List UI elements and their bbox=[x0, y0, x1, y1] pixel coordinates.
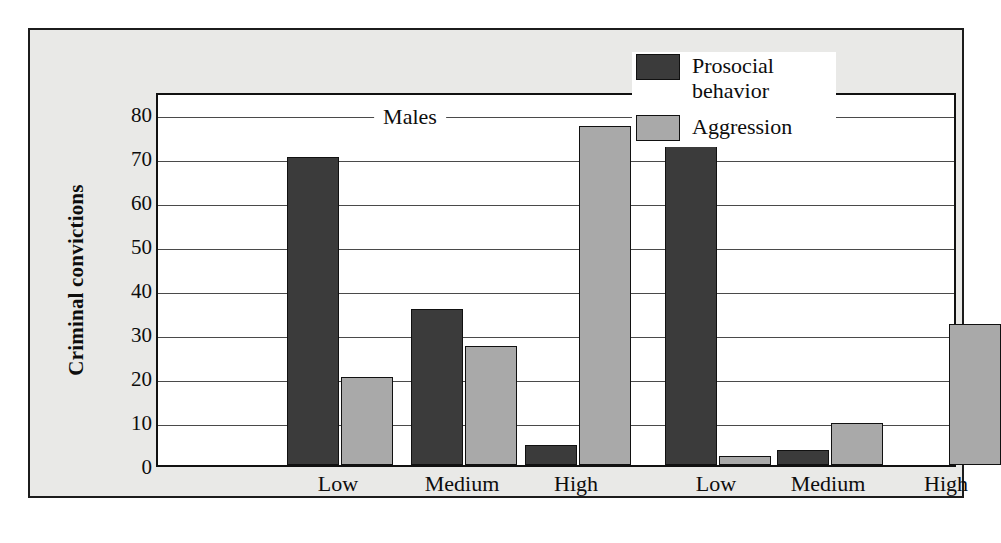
x-tick-females-medium: Medium bbox=[791, 471, 866, 497]
y-tick-20: 20 bbox=[108, 369, 152, 390]
x-tick-males-high: High bbox=[554, 471, 598, 497]
bar-aggression-females-medium bbox=[831, 423, 883, 465]
gridline-60 bbox=[158, 205, 954, 206]
group-label-males: Males bbox=[374, 104, 446, 130]
gridline-20 bbox=[158, 381, 954, 382]
chart-panel: Criminal convictions 80706050403020100 M… bbox=[28, 28, 964, 498]
y-tick-60: 60 bbox=[108, 193, 152, 214]
gridline-70 bbox=[158, 161, 954, 162]
bar-prosocial-males-low bbox=[287, 157, 339, 465]
y-tick-30: 30 bbox=[108, 325, 152, 346]
bar-aggression-females-low bbox=[719, 456, 771, 465]
x-tick-males-low: Low bbox=[318, 471, 358, 497]
y-tick-50: 50 bbox=[108, 237, 152, 258]
y-tick-70: 70 bbox=[108, 149, 152, 170]
chart-legend: Prosocial behaviorAggression bbox=[632, 52, 836, 147]
plot-area: MalesFemales bbox=[156, 93, 956, 467]
x-axis-tick-labels: LowMediumHighLowMediumHigh bbox=[156, 471, 956, 511]
x-tick-males-medium: Medium bbox=[425, 471, 500, 497]
legend-item-aggression: Aggression bbox=[636, 115, 832, 141]
bar-aggression-males-high bbox=[579, 126, 631, 465]
x-tick-females-high: High bbox=[924, 471, 968, 497]
legend-label-prosocial: Prosocial behavior bbox=[692, 54, 822, 103]
y-axis-tick-labels: 80706050403020100 bbox=[96, 93, 152, 467]
y-tick-40: 40 bbox=[108, 281, 152, 302]
legend-label-aggression: Aggression bbox=[692, 115, 792, 140]
y-tick-0: 0 bbox=[108, 457, 152, 478]
y-axis-title: Criminal convictions bbox=[64, 93, 94, 467]
gridline-30 bbox=[158, 337, 954, 338]
prosocial-swatch bbox=[636, 54, 680, 80]
gridline-50 bbox=[158, 249, 954, 250]
bar-aggression-males-medium bbox=[465, 346, 517, 465]
bar-prosocial-males-high bbox=[525, 445, 577, 465]
bar-prosocial-females-low bbox=[665, 124, 717, 465]
y-tick-80: 80 bbox=[108, 105, 152, 126]
gridline-40 bbox=[158, 293, 954, 294]
legend-item-prosocial: Prosocial behavior bbox=[636, 54, 832, 103]
bar-prosocial-males-medium bbox=[411, 309, 463, 465]
y-tick-10: 10 bbox=[108, 413, 152, 434]
bar-aggression-females-high bbox=[949, 324, 1001, 465]
bar-aggression-males-low bbox=[341, 377, 393, 465]
aggression-swatch bbox=[636, 115, 680, 141]
x-tick-females-low: Low bbox=[696, 471, 736, 497]
plot-inner: MalesFemales bbox=[158, 95, 954, 465]
bar-prosocial-females-medium bbox=[777, 450, 829, 465]
